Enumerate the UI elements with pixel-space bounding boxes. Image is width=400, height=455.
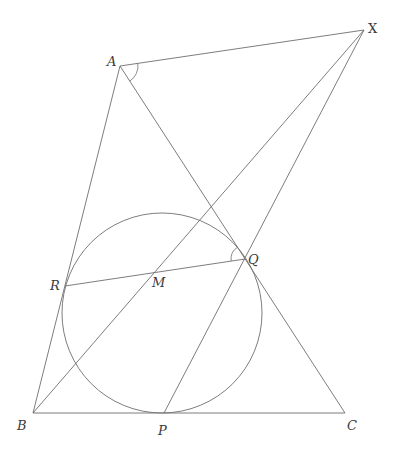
segment-ab [33, 66, 120, 413]
segment-xb [33, 30, 364, 413]
geometry-diagram: A X Q R M B P C [0, 0, 400, 455]
label-p: P [157, 423, 167, 438]
segment-xp [164, 30, 364, 413]
label-x: X [368, 21, 378, 36]
incircle [62, 213, 262, 413]
label-m: M [151, 275, 166, 290]
angle-mark-q [231, 247, 237, 261]
label-a: A [106, 54, 116, 69]
segment-ca [120, 66, 345, 413]
label-q: Q [248, 252, 259, 267]
label-b: B [16, 418, 27, 433]
angle-mark-a [130, 63, 138, 81]
label-c: C [347, 418, 357, 433]
segment-ax [120, 30, 364, 66]
label-r: R [49, 278, 60, 293]
